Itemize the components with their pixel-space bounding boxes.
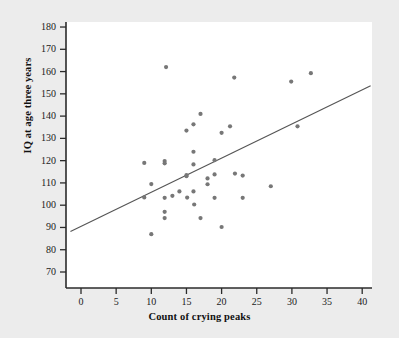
x-axis-title: Count of crying peaks xyxy=(0,311,399,322)
data-point xyxy=(269,184,273,188)
data-point xyxy=(163,210,167,214)
data-point xyxy=(205,176,209,180)
data-point xyxy=(142,161,146,165)
data-point xyxy=(191,150,195,154)
x-tick-label: 35 xyxy=(322,297,332,307)
data-point xyxy=(192,202,196,206)
data-point xyxy=(142,195,146,199)
data-point xyxy=(198,216,202,220)
data-point xyxy=(191,122,195,126)
plot-area-background xyxy=(66,22,372,288)
data-point xyxy=(198,112,202,116)
data-point xyxy=(212,158,216,162)
data-point xyxy=(289,79,293,83)
y-axis-ticks xyxy=(60,27,66,272)
data-point xyxy=(170,194,174,198)
data-point xyxy=(191,189,195,193)
y-tick-label: 100 xyxy=(28,200,56,210)
data-point xyxy=(149,182,153,186)
data-point xyxy=(163,196,167,200)
y-tick-label: 80 xyxy=(28,245,56,255)
data-point xyxy=(309,71,313,75)
x-tick-label: 25 xyxy=(252,297,262,307)
data-point xyxy=(232,75,236,79)
data-point xyxy=(212,196,216,200)
data-point xyxy=(233,171,237,175)
y-axis-title: IQ at age three years xyxy=(22,16,33,196)
plot-surface xyxy=(0,0,399,338)
data-point xyxy=(191,162,195,166)
data-point xyxy=(177,189,181,193)
data-point xyxy=(220,225,224,229)
x-tick-label: 0 xyxy=(79,297,84,307)
data-point xyxy=(184,174,188,178)
scatter-plot-figure: 7080901001101201301401501601701800510152… xyxy=(0,0,399,338)
x-tick-label: 10 xyxy=(146,297,156,307)
data-point xyxy=(164,65,168,69)
x-tick-label: 15 xyxy=(181,297,191,307)
data-point xyxy=(228,124,232,128)
x-tick-label: 40 xyxy=(357,297,367,307)
x-axis-ticks xyxy=(81,288,362,294)
x-tick-label: 5 xyxy=(114,297,119,307)
data-point xyxy=(184,128,188,132)
x-tick-label: 30 xyxy=(287,297,297,307)
data-point xyxy=(185,196,189,200)
data-point xyxy=(163,216,167,220)
data-point xyxy=(241,173,245,177)
data-point xyxy=(149,232,153,236)
data-point xyxy=(220,131,224,135)
data-point xyxy=(205,182,209,186)
y-tick-label: 90 xyxy=(28,222,56,232)
y-tick-label: 70 xyxy=(28,267,56,277)
data-point xyxy=(241,196,245,200)
data-point xyxy=(163,161,167,165)
data-point xyxy=(295,124,299,128)
data-point xyxy=(212,172,216,176)
x-tick-label: 20 xyxy=(217,297,227,307)
